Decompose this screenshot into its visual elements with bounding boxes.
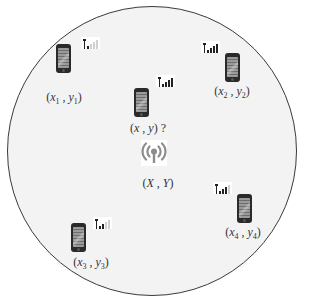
signal-strength-icon bbox=[93, 217, 112, 229]
node-1-label: (x1 , y1) bbox=[46, 90, 82, 106]
signal-strength-icon bbox=[213, 182, 232, 194]
node-3-label: (x3 , y3) bbox=[73, 255, 109, 271]
smartphone-icon bbox=[56, 44, 71, 73]
smartphone-icon bbox=[225, 53, 240, 82]
smartphone-icon bbox=[71, 223, 86, 252]
signal-strength-icon bbox=[201, 41, 220, 53]
signal-strength-icon bbox=[156, 75, 175, 87]
unknown-node-label: (x , y) ? bbox=[130, 121, 166, 136]
node-4-label: (x4 , y4) bbox=[225, 225, 261, 241]
node-2-label: (x2 , y2) bbox=[214, 84, 250, 100]
broadcast-tower-icon bbox=[141, 140, 167, 166]
unknown-smartphone-icon bbox=[134, 88, 149, 117]
signal-strength-icon bbox=[81, 37, 100, 49]
smartphone-icon bbox=[237, 194, 252, 223]
anchor-label: (X , Y) bbox=[142, 176, 173, 191]
